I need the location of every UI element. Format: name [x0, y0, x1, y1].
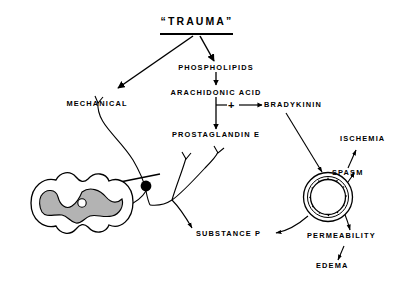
blood-vessel-cross-section	[304, 173, 353, 222]
node-spasm: SPASM	[332, 169, 363, 176]
node-arachidonic-acid: ARACHIDONIC ACID	[171, 89, 262, 96]
edge-vessel-to-substance-p	[276, 216, 308, 233]
free-nerve-endings	[150, 146, 224, 228]
node-ischemia: ISCHEMIA	[340, 135, 385, 142]
node-mechanical: MECHANICAL	[66, 100, 127, 107]
dorsal-root-ganglion	[141, 181, 152, 192]
node-bradykinin: BRADYKININ	[264, 101, 322, 108]
edge-spasm-to-ischemia	[348, 150, 356, 168]
node-permeability: PERMEABILITY	[307, 232, 376, 239]
edge-permeability-to-edema	[338, 246, 344, 260]
edge-bradykinin-to-vessel	[286, 113, 322, 172]
edge-trauma-to-phospholipids	[200, 36, 214, 61]
spinal-cord-cross-section	[31, 173, 133, 234]
node-substance-p: SUBSTANCE P	[196, 230, 261, 237]
edge-trauma-to-mechanical	[118, 36, 193, 88]
node-phospholipids: PHOSPHOLIPIDS	[178, 64, 254, 71]
page-title: “TRAUMA”	[161, 16, 234, 27]
node-edema: EDEMA	[316, 262, 348, 269]
title-underline	[160, 33, 233, 35]
trauma-pathway-diagram: “TRAUMA” MECHANICAL PHOSPHOLIPIDS ARACHI…	[0, 0, 395, 282]
node-prostaglandin-e: PROSTAGLANDIN E	[172, 131, 260, 138]
plus-sign: +	[228, 100, 234, 111]
